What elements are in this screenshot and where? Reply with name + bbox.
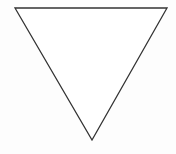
diagram-canvas <box>0 0 176 154</box>
inverted-triangle-shape <box>15 8 167 140</box>
triangle-diagram <box>0 0 176 154</box>
